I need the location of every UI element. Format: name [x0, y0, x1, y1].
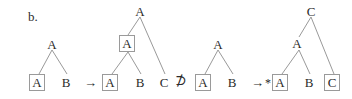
edge-tree3-right [218, 50, 233, 74]
edge-tree3-left [205, 50, 218, 74]
tree3-leaf-b: B [225, 76, 239, 90]
tree4-leaf-a-boxed: A [272, 74, 288, 91]
tree2-leaf-c: C [157, 76, 171, 90]
edge-tree2-root-left [128, 17, 140, 35]
tree4-leaf-c-boxed: C [324, 74, 340, 91]
ungrammatical-star-icon: * [265, 77, 271, 89]
tree4-mid-node: A [290, 37, 304, 51]
tree1-root-node: A [45, 38, 59, 52]
edge-tree4-root-left [299, 17, 311, 37]
tree2-mid-node-boxed: A [119, 35, 135, 52]
figure-canvas: b. A A B → A A A B C ⊅ A A B → * C A A B… [0, 0, 352, 99]
edge-tree2-mid-right [128, 52, 141, 74]
tree2-leaf-a-boxed: A [102, 74, 118, 91]
rewrite-arrow-1-icon: → [84, 76, 97, 89]
tree4-root-node: C [304, 5, 318, 19]
not-superset-icon: ⊅ [175, 74, 187, 87]
tree1-leaf-b: B [59, 76, 73, 90]
edge-tree1-left [39, 50, 52, 74]
tree4-leaf-b: B [302, 76, 316, 90]
section-label: b. [28, 10, 38, 23]
edge-tree2-root-right [140, 17, 165, 74]
tree2-leaf-b: B [133, 76, 147, 90]
edge-tree4-mid-left [282, 50, 299, 74]
edge-tree2-mid-left [112, 52, 128, 74]
edge-tree4-mid-right [299, 50, 310, 74]
edge-tree1-right [52, 50, 67, 74]
tree3-root-node: A [211, 38, 225, 52]
tree2-root-node: A [133, 5, 147, 19]
rewrite-arrow-2-icon: → [251, 76, 264, 89]
edge-tree4-root-right [311, 17, 334, 74]
tree3-leaf-a-boxed: A [195, 74, 211, 91]
tree1-leaf-a-boxed: A [29, 74, 45, 91]
